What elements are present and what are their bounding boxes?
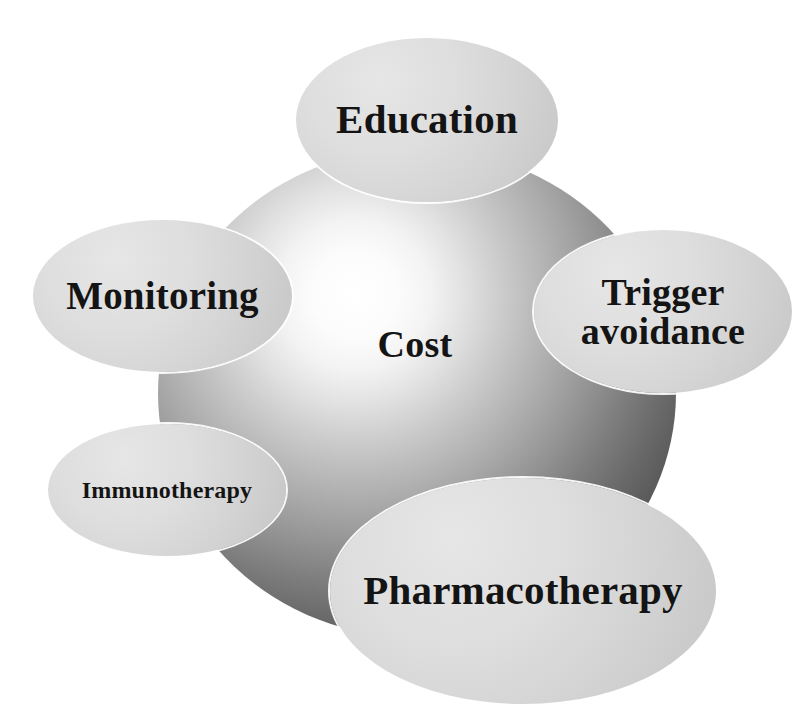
node-trigger-avoidance-label: Trigger avoidance xyxy=(581,273,745,351)
node-immunotherapy[interactable]: Immunotherapy xyxy=(48,424,286,556)
node-immunotherapy-label: Immunotherapy xyxy=(82,478,253,502)
node-pharmacotherapy[interactable]: Pharmacotherapy xyxy=(330,478,716,704)
node-trigger-avoidance-line2: avoidance xyxy=(581,310,745,352)
cost-center-label: Cost xyxy=(330,322,500,366)
node-education[interactable]: Education xyxy=(296,38,558,202)
node-monitoring[interactable]: Monitoring xyxy=(33,220,292,372)
node-pharmacotherapy-label: Pharmacotherapy xyxy=(363,570,683,612)
node-monitoring-label: Monitoring xyxy=(66,276,259,316)
node-trigger-avoidance[interactable]: Trigger avoidance xyxy=(534,230,792,393)
node-education-label: Education xyxy=(336,99,518,141)
node-trigger-avoidance-line1: Trigger xyxy=(601,271,724,313)
diagram-canvas: Cost Education Monitoring Trigger avoida… xyxy=(0,0,812,712)
